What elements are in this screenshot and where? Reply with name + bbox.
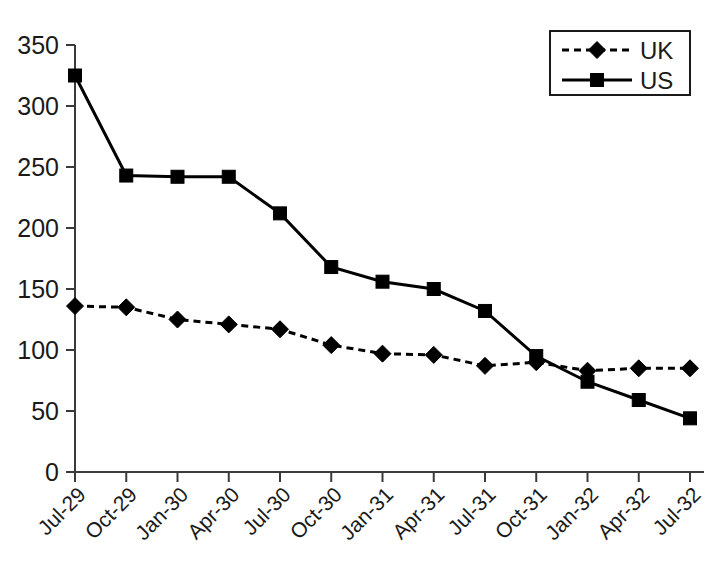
data-point-diamond bbox=[323, 337, 340, 354]
data-point-square bbox=[325, 261, 338, 274]
x-tick-label: Jul-29 bbox=[33, 483, 90, 540]
data-point-diamond bbox=[220, 316, 237, 333]
data-point-square bbox=[530, 350, 543, 363]
x-tick-label: Oct-29 bbox=[80, 483, 141, 544]
y-tick-label: 150 bbox=[17, 275, 59, 303]
legend-label-us: US bbox=[640, 67, 673, 94]
legend-label-uk: UK bbox=[640, 37, 673, 64]
data-point-square bbox=[222, 170, 235, 183]
data-point-diamond bbox=[272, 321, 289, 338]
series-layer bbox=[67, 69, 699, 425]
data-point-diamond bbox=[67, 298, 84, 315]
x-tick-label: Jan-30 bbox=[131, 483, 193, 545]
y-tick-label: 350 bbox=[17, 31, 59, 59]
x-tick-label: Apr-31 bbox=[388, 483, 449, 544]
data-point-square bbox=[581, 375, 594, 388]
x-tick-label: Oct-31 bbox=[490, 483, 551, 544]
y-tick-label: 50 bbox=[31, 397, 59, 425]
y-tick-label: 200 bbox=[17, 214, 59, 242]
data-point-diamond bbox=[477, 357, 494, 374]
data-point-diamond bbox=[630, 360, 647, 377]
x-tick-label: Jul-32 bbox=[648, 483, 705, 540]
data-point-diamond bbox=[425, 346, 442, 363]
line-chart: Jul-29Oct-29Jan-30Apr-30Jul-30Oct-30Jan-… bbox=[0, 0, 728, 566]
data-point-diamond bbox=[169, 311, 186, 328]
y-tick-label: 300 bbox=[17, 92, 59, 120]
y-tick-label: 250 bbox=[17, 153, 59, 181]
x-axis-ticks bbox=[75, 472, 690, 482]
x-tick-label: Jul-30 bbox=[238, 483, 295, 540]
chart-legend[interactable]: UKUS bbox=[550, 31, 690, 95]
data-point-square bbox=[684, 412, 697, 425]
data-point-square bbox=[376, 275, 389, 288]
data-point-square bbox=[274, 207, 287, 220]
data-point-square bbox=[120, 169, 133, 182]
x-tick-label: Jan-31 bbox=[336, 483, 398, 545]
data-point-diamond bbox=[118, 299, 135, 316]
y-axis-ticks bbox=[66, 45, 75, 472]
data-point-diamond bbox=[682, 360, 699, 377]
x-tick-label: Apr-32 bbox=[593, 483, 654, 544]
data-point-square bbox=[427, 283, 440, 296]
x-tick-label: Jan-32 bbox=[541, 483, 603, 545]
y-tick-label: 100 bbox=[17, 336, 59, 364]
series-line-us bbox=[75, 76, 690, 419]
data-point-square bbox=[479, 304, 492, 317]
x-tick-label: Jul-31 bbox=[443, 483, 500, 540]
x-axis-labels: Jul-29Oct-29Jan-30Apr-30Jul-30Oct-30Jan-… bbox=[33, 483, 705, 545]
data-point-square bbox=[171, 170, 184, 183]
data-point-diamond bbox=[374, 345, 391, 362]
x-tick-label: Oct-30 bbox=[285, 483, 346, 544]
data-point-square bbox=[591, 74, 604, 87]
y-tick-label: 0 bbox=[45, 458, 59, 486]
y-axis-labels: 050100150200250300350 bbox=[17, 31, 59, 486]
data-point-square bbox=[69, 69, 82, 82]
chart-canvas: Jul-29Oct-29Jan-30Apr-30Jul-30Oct-30Jan-… bbox=[0, 0, 728, 566]
x-tick-label: Apr-30 bbox=[183, 483, 244, 544]
data-point-square bbox=[632, 394, 645, 407]
